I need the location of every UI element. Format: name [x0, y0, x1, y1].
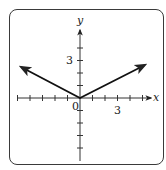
- origin-label: 0: [72, 100, 79, 113]
- y-tick-label-3: 3: [66, 54, 73, 67]
- y-axis-label: y: [76, 14, 84, 27]
- graph: y x 0 3 3: [0, 0, 166, 170]
- absolute-value-curve: [21, 65, 145, 98]
- x-tick-label-3: 3: [114, 104, 121, 117]
- x-axis-label: x: [153, 91, 160, 104]
